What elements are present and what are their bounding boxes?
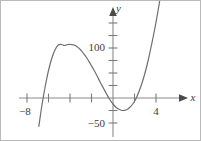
x-axis-arrowhead xyxy=(179,94,188,102)
y-axis-label: y xyxy=(115,2,121,14)
x-tick-label--8: −8 xyxy=(19,105,31,117)
graph-figure: −8 4 100 −50 x y xyxy=(0,0,201,141)
y-tick-label-100: 100 xyxy=(89,41,106,53)
y-tick-label--50: −50 xyxy=(88,117,106,129)
plot-canvas: −8 4 100 −50 x y xyxy=(1,1,201,141)
cubic-curve xyxy=(39,1,161,127)
x-axis-label: x xyxy=(190,91,196,103)
x-tick-label-4: 4 xyxy=(153,105,159,117)
